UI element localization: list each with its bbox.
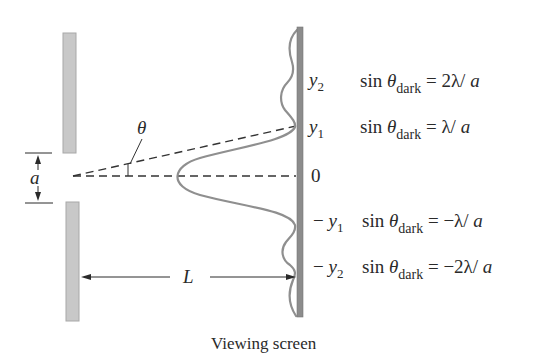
viewing-screen	[297, 27, 303, 317]
label-neg-y2: − y2	[313, 257, 343, 276]
equation-first-dark-lower: sin θdark = −λ/ a	[362, 211, 483, 230]
upper-barrier	[63, 33, 76, 153]
angle-label: θ	[137, 118, 146, 137]
angle-marker	[128, 139, 142, 176]
viewing-screen-caption: Viewing screen	[211, 335, 316, 352]
label-y2: y2	[309, 70, 324, 89]
slit-width-label: a	[30, 168, 40, 187]
diffraction-diagram	[0, 0, 540, 357]
equation-second-dark-lower: sin θdark = −2λ/ a	[362, 257, 492, 276]
equation-first-dark-upper: sin θdark = λ/ a	[360, 117, 470, 136]
dashed-rays	[73, 126, 296, 176]
equation-second-dark-upper: sin θdark = 2λ/ a	[360, 71, 480, 90]
label-neg-y1: − y1	[313, 211, 343, 230]
distance-label: L	[183, 267, 194, 286]
intensity-curve	[177, 30, 297, 316]
label-y1: y1	[309, 117, 324, 136]
label-zero: 0	[311, 166, 321, 185]
lower-barrier	[66, 202, 79, 321]
